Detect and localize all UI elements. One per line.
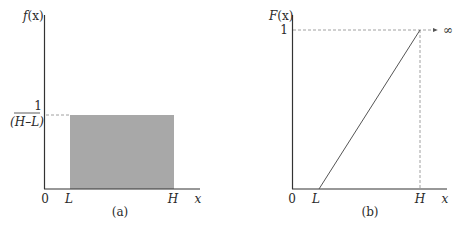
y-tick-numerator: 1: [34, 99, 42, 113]
x-tick-H: H: [414, 192, 426, 206]
x-tick-zero: 0: [288, 192, 296, 206]
caption-b: (b): [361, 205, 378, 219]
x-tick-H: H: [167, 192, 179, 206]
y-tick-denominator: (H–L): [10, 115, 44, 129]
x-tick-zero: 0: [41, 192, 49, 206]
y-axis-label: F(x): [268, 9, 293, 23]
x-tick-L: L: [64, 192, 73, 206]
density-rectangle: [70, 115, 174, 189]
y-tick-one: 1: [280, 23, 288, 37]
panel-b-cdf: F(x) 1 ∞ 0 L H x (b): [268, 9, 453, 219]
infinity-symbol: ∞: [443, 23, 453, 37]
y-axis-label: f(x): [22, 9, 44, 23]
uniform-distribution-figure: f(x) 1 (H–L) 0 L H x (a) F(x) 1 ∞ 0 L H …: [0, 0, 455, 230]
x-axis-label: x: [442, 192, 449, 206]
caption-a: (a): [112, 205, 129, 219]
x-tick-L: L: [311, 192, 320, 206]
x-axis-label: x: [195, 192, 202, 206]
cdf-line: [319, 30, 420, 189]
panel-a-pdf: f(x) 1 (H–L) 0 L H x (a): [10, 9, 202, 219]
